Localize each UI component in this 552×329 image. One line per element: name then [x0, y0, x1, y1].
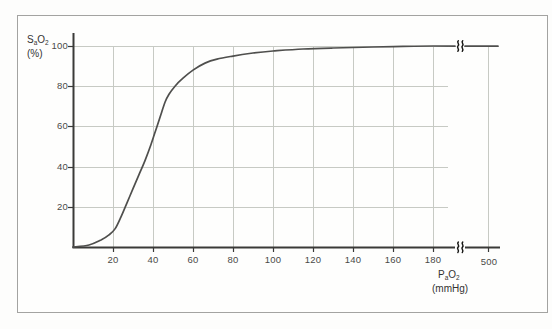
x-tick-label: 120 [297, 255, 329, 265]
y-axis-title: SaO2 [27, 34, 49, 48]
x-tick-label: 500 [473, 257, 505, 267]
x-tick-label: 140 [337, 255, 369, 265]
grid-layer [73, 46, 489, 247]
x-tick-label: 180 [417, 255, 449, 265]
plot-svg [0, 0, 552, 329]
x-axis-break-icon [457, 242, 463, 252]
break-marks [457, 41, 463, 253]
curve-layer [73, 46, 498, 247]
x-tick-label: 80 [217, 255, 249, 265]
y-tick-label: 20 [38, 202, 68, 212]
x-axis-unit: (mmHg) [432, 283, 468, 294]
y-axis-unit: (%) [27, 48, 43, 59]
x-tick-label: 20 [97, 255, 129, 265]
x-tick-label: 40 [137, 255, 169, 265]
x-tick-label: 100 [257, 255, 289, 265]
x-tick-label: 60 [177, 255, 209, 265]
x-axis-title: PaO2 [438, 269, 460, 283]
figure: 100 80 60 40 20 20 40 60 80 100 120 140 … [0, 0, 552, 329]
dissociation-curve [73, 46, 455, 247]
curve-break-icon [457, 41, 463, 51]
y-tick-label: 40 [38, 162, 68, 172]
y-tick-label: 60 [38, 121, 68, 131]
y-tick-label: 80 [38, 81, 68, 91]
axis-layer [68, 33, 500, 252]
x-tick-label: 160 [377, 255, 409, 265]
